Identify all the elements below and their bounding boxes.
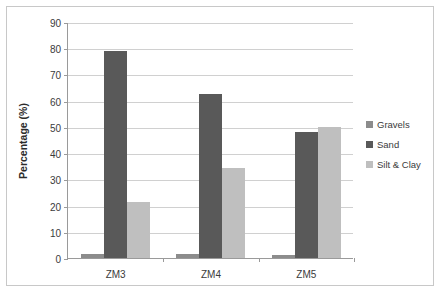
bar-sand-zm4[interactable]	[199, 94, 222, 258]
y-axis-tick-label: 10	[50, 227, 61, 238]
chart-legend: GravelsSandSilt & Clay	[366, 119, 421, 179]
y-axis-tick-label: 90	[50, 18, 61, 29]
x-axis-tick	[354, 258, 355, 262]
bar-gravels-zm4[interactable]	[176, 254, 199, 258]
y-axis-tick-label: 30	[50, 175, 61, 186]
bar-sand-zm5[interactable]	[295, 132, 318, 258]
legend-label: Silt & Clay	[377, 159, 421, 170]
legend-label: Gravels	[377, 119, 410, 130]
y-axis-tick-label: 70	[50, 70, 61, 81]
bar-gravels-zm5[interactable]	[272, 255, 295, 258]
y-axis-tick-label: 40	[50, 149, 61, 160]
bar-group: ZM3	[68, 23, 163, 258]
bar-gravels-zm3[interactable]	[81, 254, 104, 258]
x-axis-tick-label: ZM3	[106, 269, 126, 280]
bar-silt-clay-zm3[interactable]	[127, 202, 150, 258]
legend-item[interactable]: Sand	[366, 139, 421, 150]
bar-group: ZM5	[259, 23, 354, 258]
legend-item[interactable]: Silt & Clay	[366, 159, 421, 170]
legend-label: Sand	[377, 139, 399, 150]
y-axis-tick-label: 20	[50, 201, 61, 212]
x-axis-tick	[259, 258, 260, 262]
legend-item[interactable]: Gravels	[366, 119, 421, 130]
bar-sand-zm3[interactable]	[104, 51, 127, 258]
y-axis-title: Percentage (%)	[17, 103, 29, 179]
y-axis-tick-label: 60	[50, 96, 61, 107]
x-axis-tick	[163, 258, 164, 262]
y-axis-tick	[64, 259, 68, 260]
legend-swatch-icon	[366, 121, 373, 128]
legend-swatch-icon	[366, 141, 373, 148]
y-axis-tick-label: 0	[55, 254, 61, 265]
x-axis-tick-label: ZM4	[201, 269, 221, 280]
bar-silt-clay-zm5[interactable]	[318, 127, 341, 258]
legend-swatch-icon	[366, 161, 373, 168]
bar-group: ZM4	[163, 23, 258, 258]
y-axis-tick-label: 80	[50, 44, 61, 55]
bar-silt-clay-zm4[interactable]	[222, 168, 245, 258]
chart-frame: Percentage (%) 0102030405060708090ZM3ZM4…	[6, 6, 434, 286]
y-axis-tick-label: 50	[50, 122, 61, 133]
plot-area: 0102030405060708090ZM3ZM4ZM5	[67, 23, 353, 259]
x-axis-tick-label: ZM5	[296, 269, 316, 280]
